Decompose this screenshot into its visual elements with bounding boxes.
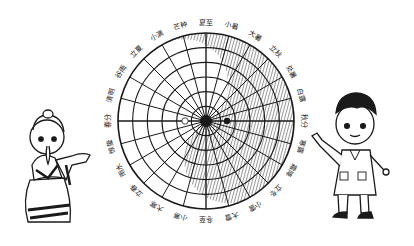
- solar-terms-illustration: 夏至小暑大暑立秋处暑白露秋分寒露霜降立冬小雪大雪冬至小寒大寒立春雨水惊蛰春分清明…: [0, 0, 414, 246]
- solar-term-label: 雨水: [113, 162, 128, 179]
- topknot: [43, 110, 53, 118]
- solar-term-label: 冬至: [199, 215, 213, 224]
- yang-eye-dot: [224, 118, 230, 124]
- yin-eye-dot: [182, 118, 188, 124]
- solar-term-label: 大暑: [247, 28, 264, 43]
- solar-term-label: 立秋: [268, 43, 284, 59]
- solar-term-label: 立冬: [268, 183, 284, 199]
- solar-term-label: 霜降: [284, 162, 299, 179]
- solar-term-label: 秋分: [300, 114, 309, 128]
- center-dot: [200, 115, 212, 127]
- solar-term-label: 春分: [103, 114, 112, 128]
- solar-term-label: 谷雨: [113, 63, 128, 80]
- beard: [46, 146, 50, 164]
- solar-term-label: 小满: [148, 28, 165, 43]
- solar-term-label: 惊蛰: [105, 139, 117, 155]
- solar-term-label: 立春: [128, 183, 144, 199]
- solar-term-label: 芒种: [173, 20, 189, 32]
- solar-term-label: 大寒: [148, 199, 165, 214]
- pointing-arm: [312, 133, 342, 166]
- ancient-scholar-character: [25, 110, 90, 222]
- solar-term-label: 清明: [105, 88, 117, 104]
- solar-term-label: 立夏: [128, 43, 144, 59]
- solar-term-label: 小寒: [173, 210, 189, 222]
- solar-term-label: 大雪: [224, 210, 240, 222]
- solar-term-label: 处暑: [284, 63, 299, 80]
- solar-terms-wheel: 夏至小暑大暑立秋处暑白露秋分寒露霜降立冬小雪大雪冬至小寒大寒立春雨水惊蛰春分清明…: [103, 1, 326, 224]
- solar-term-label: 小雪: [247, 199, 264, 214]
- modern-scientist-character: [312, 93, 389, 218]
- solar-term-label: 夏至: [199, 19, 213, 27]
- solar-term-label: 寒露: [295, 139, 307, 155]
- solar-term-label: 小暑: [224, 20, 240, 32]
- solar-term-label: 白露: [295, 88, 307, 104]
